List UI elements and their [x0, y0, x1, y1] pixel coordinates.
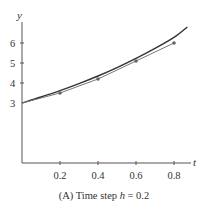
x-tick-label: 0.2 [53, 170, 66, 181]
x-tick-label: 0.6 [129, 170, 142, 181]
y-tick-label: 4 [10, 78, 16, 89]
euler-point-marker [134, 59, 138, 63]
euler-point-marker [58, 91, 62, 95]
x-axis-label: t [193, 156, 197, 168]
caption-suffix: = 0.2 [125, 190, 149, 201]
y-tick-label: 3 [10, 98, 15, 109]
x-tick-label: 0.8 [167, 170, 180, 181]
y-tick-label: 5 [10, 58, 15, 69]
y-tick-label: 6 [10, 38, 15, 49]
chart-caption: (A) Time step h = 0.2 [0, 190, 208, 201]
chart-plot-area: yt34560.20.40.60.8 [0, 0, 208, 190]
exact-solution-curve [22, 27, 187, 103]
euler-point-marker [96, 77, 100, 81]
y-axis-label: y [16, 9, 22, 21]
euler-approximation-line [22, 43, 174, 103]
euler-point-marker [172, 41, 176, 45]
caption-prefix: (A) Time step [59, 190, 120, 201]
axes: yt34560.20.40.60.8 [10, 9, 197, 181]
series-layer [22, 27, 187, 103]
x-tick-label: 0.4 [91, 170, 105, 181]
